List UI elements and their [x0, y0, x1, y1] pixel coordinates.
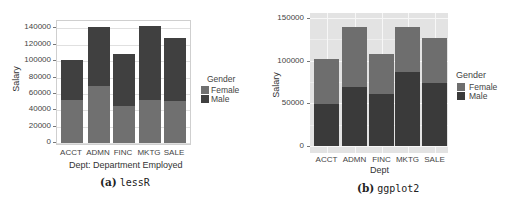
gg-x-tick-label: MKTG — [393, 155, 423, 164]
gg-major-gridline — [310, 18, 448, 19]
gg-y-tick-mark — [307, 103, 310, 104]
gg-legend-label-male: Male — [469, 92, 487, 100]
gg-bar-acct-female — [314, 59, 339, 104]
gg-y-tick-mark — [307, 61, 310, 62]
gg-caption: (b) ggplot2 — [357, 182, 419, 194]
gg-bar-admn-male — [342, 87, 367, 146]
gg-y-tick-label: 100000 — [268, 57, 304, 65]
gg-x-tick-label: ACCT — [312, 155, 342, 164]
gg-bar-acct-male — [314, 104, 339, 146]
gg-y-tick-label: 50000 — [268, 99, 304, 107]
gg-y-tick-mark — [307, 146, 310, 147]
gg-bar-sale-female — [422, 38, 447, 83]
gg-bar-finc-male — [369, 94, 394, 146]
gg-bar-mktg-male — [395, 72, 420, 146]
gg-legend-key-male — [457, 92, 465, 100]
gg-bar-admn-female — [342, 27, 367, 87]
gg-x-tick-label: ADMN — [340, 155, 370, 164]
gg-bar-mktg-female — [395, 27, 420, 72]
gg-x-tick-label: SALE — [420, 155, 450, 164]
gg-legend-key-female — [457, 83, 465, 91]
gg-x-axis-title: Dept — [370, 165, 389, 175]
gg-plot-panel — [310, 13, 448, 153]
gg-caption-prefix: (b) — [357, 182, 374, 194]
gg-caption-name: ggplot2 — [377, 183, 419, 194]
gg-y-tick-mark — [307, 18, 310, 19]
gg-y-tick-label: 150000 — [268, 14, 304, 22]
gg-bar-finc-female — [369, 54, 394, 94]
gg-legend-label-female: Female — [469, 83, 497, 91]
gg-y-tick-label: 0 — [268, 142, 304, 150]
gg-major-gridline — [310, 146, 448, 147]
ggplot2-figure: Salary Dept Gender Female Male (b) ggplo… — [0, 0, 509, 205]
gg-bar-sale-male — [422, 83, 447, 146]
gg-legend-title: Gender — [456, 70, 486, 80]
